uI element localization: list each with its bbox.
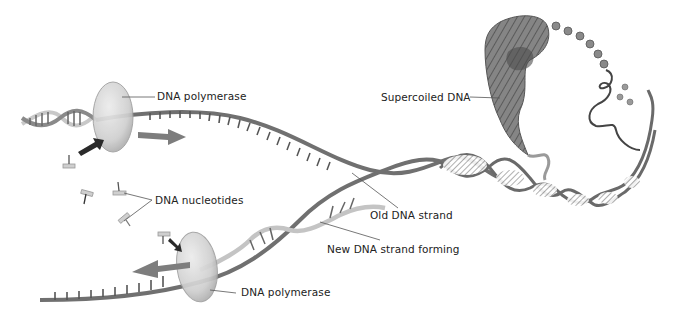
label-dna-polymerase-bottom: DNA polymerase (241, 286, 330, 298)
label-old-dna-strand: Old DNA strand (370, 209, 453, 221)
top-left-helix (22, 111, 96, 126)
nucleotide-entry-arrow-top (78, 138, 104, 156)
supercoiled-dna (485, 16, 640, 180)
old-strand-top (96, 112, 500, 178)
direction-arrow-top (138, 129, 186, 145)
label-dna-nucleotides: DNA nucleotides (155, 194, 243, 206)
new-strand (200, 207, 385, 270)
free-nucleotides (63, 155, 170, 244)
nucleotide-entry-arrow-bottom (168, 238, 182, 252)
label-new-dna-strand: New DNA strand forming (327, 243, 460, 255)
label-dna-polymerase-top: DNA polymerase (157, 90, 246, 102)
old-strand-bottom (40, 160, 450, 300)
right-helix (440, 90, 655, 206)
dna-replication-diagram: DNA polymerase DNA nucleotides DNA polym… (0, 0, 674, 327)
diagram-canvas (0, 0, 674, 327)
label-supercoiled-dna: Supercoiled DNA (381, 91, 471, 103)
